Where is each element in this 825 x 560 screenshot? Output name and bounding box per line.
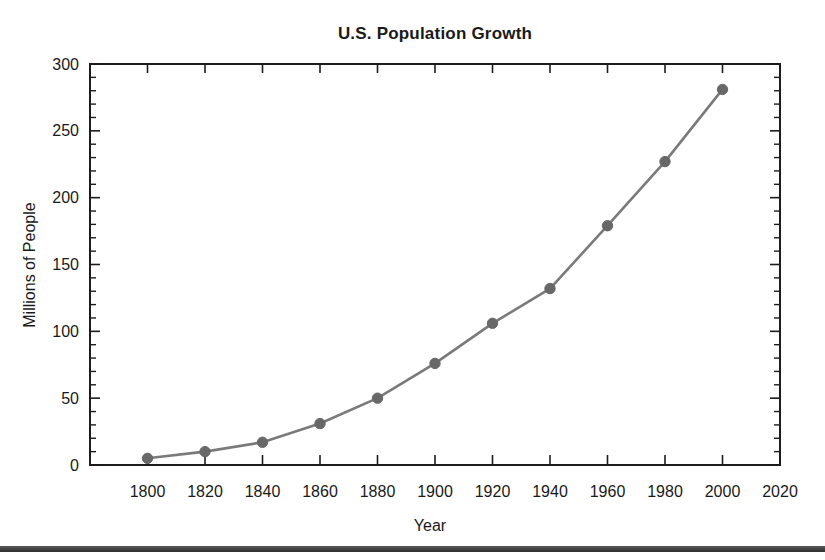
data-point: [257, 437, 267, 447]
y-tick-label: 300: [52, 56, 79, 73]
data-point: [660, 156, 670, 166]
y-tick-label: 100: [52, 323, 79, 340]
x-tick-label: 1880: [360, 483, 396, 500]
data-line: [148, 89, 723, 458]
y-tick-label: 150: [52, 256, 79, 273]
y-tick-label: 50: [61, 390, 79, 407]
plot-frame: [90, 64, 780, 465]
data-point: [142, 453, 152, 463]
data-point: [200, 446, 210, 456]
x-tick-label: 2020: [762, 483, 798, 500]
data-point: [430, 358, 440, 368]
data-point: [315, 418, 325, 428]
x-axis-label: Year: [90, 517, 770, 535]
data-point: [717, 84, 727, 94]
x-tick-label: 1840: [245, 483, 281, 500]
x-tick-label: 1800: [130, 483, 166, 500]
x-tick-label: 1900: [417, 483, 453, 500]
x-tick-label: 1980: [647, 483, 683, 500]
x-tick-label: 1940: [532, 483, 568, 500]
chart-canvas: 0501001502002503001800182018401860188019…: [0, 0, 825, 560]
x-tick-label: 1820: [187, 483, 223, 500]
figure: U.S. Population Growth Millions of Peopl…: [0, 0, 825, 560]
x-tick-label: 1860: [302, 483, 338, 500]
data-point: [372, 393, 382, 403]
x-tick-label: 1920: [475, 483, 511, 500]
y-tick-label: 250: [52, 122, 79, 139]
data-point: [545, 283, 555, 293]
data-point: [487, 318, 497, 328]
data-point: [602, 221, 612, 231]
page-bottom-rule: [0, 546, 825, 552]
x-tick-label: 1960: [590, 483, 626, 500]
y-tick-label: 200: [52, 189, 79, 206]
x-tick-label: 2000: [705, 483, 741, 500]
y-tick-label: 0: [70, 457, 79, 474]
